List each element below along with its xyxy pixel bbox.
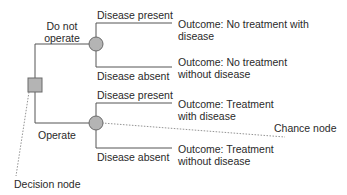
outcome-text-line2: without disease <box>178 68 287 80</box>
decision-node-pointer <box>16 92 29 176</box>
outcome-text-line2: without disease <box>178 155 274 167</box>
outcome-text-line1: Outcome: No treatment <box>178 56 287 68</box>
decision-node-square <box>28 78 42 92</box>
outcome-label-disease-absent-1: Disease absent <box>97 70 169 82</box>
outcome-text-line1: Outcome: Treatment <box>178 143 274 155</box>
outcome-label-disease-present-2: Disease present <box>97 89 173 101</box>
outcome-label-disease-absent-2: Disease absent <box>97 151 169 163</box>
branch-label-line2: operate <box>38 32 86 44</box>
outcome-text-4: Outcome: Treatment without disease <box>178 143 274 167</box>
outcome-text-3: Outcome: Treatment with disease <box>178 98 274 122</box>
outcome-text-1: Outcome: No treatment with disease <box>178 18 309 42</box>
branch-label-do-not-operate: Do not operate <box>38 20 86 44</box>
branch-label-operate: Operate <box>38 129 76 141</box>
chance-node-bottom <box>89 116 103 130</box>
branch-label-line1: Do not <box>38 20 86 32</box>
decision-node-annotation: Decision node <box>14 178 81 190</box>
chance-node-top <box>89 37 103 51</box>
outcome-text-line1: Outcome: No treatment with <box>178 18 309 30</box>
outcome-text-line2: with disease <box>178 110 274 122</box>
outcome-text-line1: Outcome: Treatment <box>178 98 274 110</box>
outcome-label-disease-present-1: Disease present <box>97 9 173 21</box>
outcome-text-2: Outcome: No treatment without disease <box>178 56 287 80</box>
chance-node-annotation: Chance node <box>274 122 336 134</box>
chance-node-pointer <box>102 123 285 137</box>
outcome-text-line2: disease <box>178 30 309 42</box>
